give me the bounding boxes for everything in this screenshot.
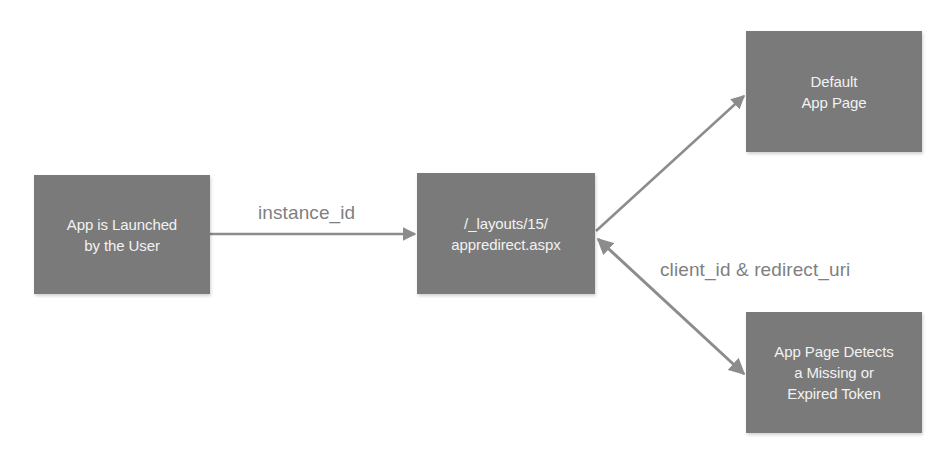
flow-diagram: App is Launched by the User /_layouts/15… bbox=[0, 0, 952, 468]
edge-redirect-to-default bbox=[596, 96, 744, 231]
node-appredirect-line-1: /_layouts/15/ bbox=[464, 213, 548, 234]
node-token-detect-line-3: Expired Token bbox=[787, 383, 880, 404]
node-token-detect-line-1: App Page Detects bbox=[774, 341, 893, 362]
node-app-launched: App is Launched by the User bbox=[34, 175, 210, 294]
edge-label-instance-id: instance_id bbox=[258, 202, 355, 224]
node-appredirect: /_layouts/15/ appredirect.aspx bbox=[417, 173, 595, 294]
node-app-launched-line-1: App is Launched bbox=[67, 214, 177, 235]
node-default-app-page: Default App Page bbox=[746, 31, 922, 152]
node-token-detect-line-2: a Missing or bbox=[794, 362, 874, 383]
edge-label-client-id-redirect-uri: client_id & redirect_uri bbox=[660, 259, 850, 281]
node-token-detect: App Page Detects a Missing or Expired To… bbox=[746, 312, 922, 433]
node-default-app-page-line-1: Default bbox=[811, 71, 858, 92]
node-app-launched-line-2: by the User bbox=[84, 235, 160, 256]
node-default-app-page-line-2: App Page bbox=[801, 92, 866, 113]
node-appredirect-line-2: appredirect.aspx bbox=[451, 234, 560, 255]
